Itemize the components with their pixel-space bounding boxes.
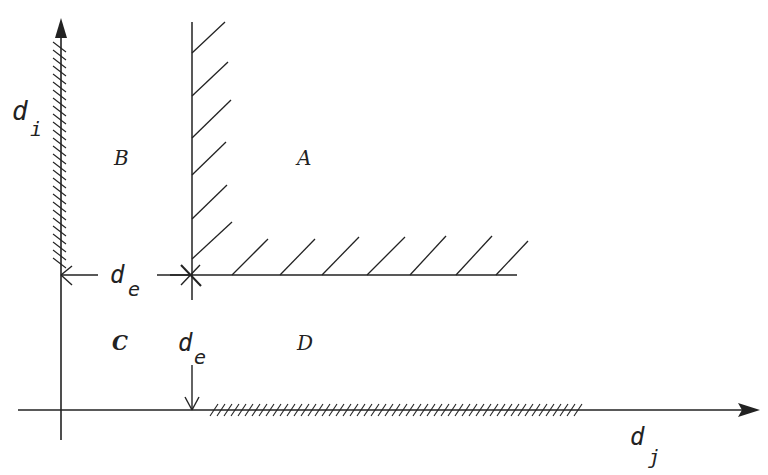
vertical-axis-subscript: i (30, 117, 42, 141)
region-d-label: D (296, 331, 313, 355)
region-c-label: C (112, 331, 128, 355)
region-a-horizontal-hatch (232, 236, 528, 275)
vertical-axis-hatch (53, 42, 66, 268)
region-b-label: B (113, 146, 129, 170)
vertical-axis (53, 18, 67, 440)
horizontal-gap-label: d (110, 261, 125, 289)
region-a-boundary (170, 22, 528, 300)
horizontal-axis-subscript: j (648, 445, 660, 469)
arrow-up-icon (55, 18, 67, 38)
region-a-label: A (295, 146, 311, 170)
horizontal-gap-subscript: e (128, 277, 140, 301)
vertical-dimension (185, 365, 199, 410)
vertical-axis-label: d (12, 96, 28, 126)
vertical-gap-subscript: e (194, 345, 206, 369)
horizontal-axis-label: d (630, 423, 645, 451)
region-a-vertical-hatch (192, 22, 232, 259)
vertical-gap-label: d (178, 329, 193, 357)
horizontal-axis (18, 403, 760, 417)
diagram-canvas: d i d j d e d e A B C D (0, 0, 768, 475)
